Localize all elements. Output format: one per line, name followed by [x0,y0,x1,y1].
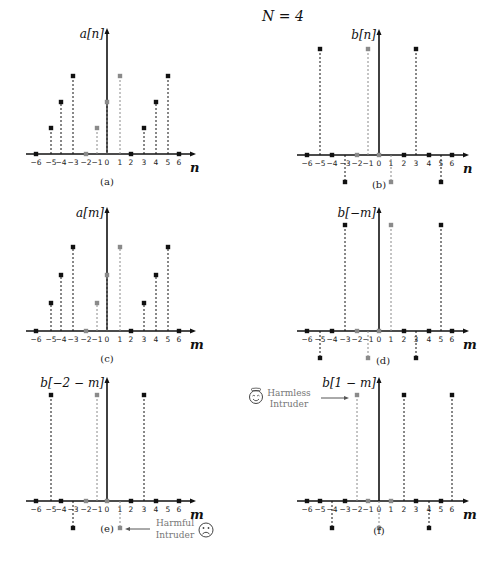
tick-label: 5 [439,335,444,344]
tick-label: −3 [339,335,350,344]
tick-label: −6 [30,335,41,344]
stem-marker [427,153,431,157]
tick-label: 2 [402,335,407,344]
stem-marker [414,356,418,360]
stem-marker [59,100,63,104]
tick-label: 4 [154,158,159,167]
stem-marker [355,329,359,333]
tick-label: 0 [105,335,110,344]
tick-label: 1 [118,335,123,344]
tick-label: 0 [377,335,382,344]
tick-label: 0 [105,505,110,514]
tick-label: −4 [55,505,66,514]
stem-marker [355,153,359,157]
y-axis-label: b[n] [351,28,376,42]
tick-label: 2 [129,505,134,514]
stem-marker [305,329,309,333]
stem-marker [377,153,381,157]
tick-label: −2 [351,505,362,514]
stem-marker [142,126,146,130]
x-axis-arrow-icon [463,153,469,158]
panel-caption: (b) [372,179,386,190]
tick-label: 4 [154,335,159,344]
harmful-label-line2: Intruder [156,530,195,540]
x-axis-arrow-icon [463,499,469,504]
tick-label: −3 [67,335,78,344]
stem-marker [330,329,334,333]
stem-marker [105,499,109,503]
stem-marker [118,74,122,78]
stem-marker [129,152,133,156]
y-axis-arrow-icon [377,377,382,383]
arrow-right-icon [344,396,349,400]
tick-label: −4 [55,158,66,167]
stem-marker [318,499,322,503]
panel-e: b[−2 − m]m−6−5−4−3−2−10123456(e) [26,376,204,534]
stem-marker [34,329,38,333]
x-axis-label: m [190,337,204,352]
tick-label: −4 [326,159,337,168]
harmful-label-line1: Harmful [156,518,194,528]
tick-label: 6 [177,335,182,344]
stem-marker [177,499,181,503]
figure: N = 4 a[n]n−6−5−4−3−2−10123456(a)b[n]n−6… [0,0,491,563]
stem-marker [402,393,406,397]
x-axis-label: n [463,161,472,176]
stem-marker [318,47,322,51]
tick-label: −2 [80,158,91,167]
stem-marker [129,329,133,333]
stem-marker [84,499,88,503]
tick-label: 6 [177,505,182,514]
stem-marker [366,499,370,503]
stem-marker [427,526,431,530]
tick-label: −2 [351,159,362,168]
stem-marker [330,526,334,530]
tick-label: 0 [105,158,110,167]
stem-plots: a[n]n−6−5−4−3−2−10123456(a)b[n]n−6−5−4−3… [0,0,491,563]
y-axis-label: a[m] [76,206,104,220]
stem-marker [154,100,158,104]
x-axis-arrow-icon [190,152,196,157]
x-axis-label: m [463,337,477,352]
stem-marker [95,301,99,305]
stem-marker [59,499,63,503]
tick-label: 4 [427,335,432,344]
harmless-intruder-annotation: HarmlessIntruder [250,388,350,409]
y-axis-label: b[1 − m] [322,376,376,390]
tick-label: 5 [166,158,171,167]
harmless-label-line2: Intruder [270,399,309,409]
stem-marker [402,329,406,333]
stem-marker [95,126,99,130]
tick-label: −6 [30,505,41,514]
tick-label: 3 [414,505,419,514]
tick-label: 4 [154,505,159,514]
x-axis-arrow-icon [190,329,196,334]
tick-label: −1 [91,335,102,344]
stem-marker [343,223,347,227]
y-axis-label: b[−m] [338,206,377,220]
stem-marker [355,393,359,397]
tick-label: −4 [55,335,66,344]
stem-marker [95,393,99,397]
stem-marker [439,180,443,184]
tick-label: −2 [351,335,362,344]
y-axis-arrow-icon [377,207,382,213]
harmless-label-line1: Harmless [267,388,311,398]
tick-label: −4 [326,335,337,344]
panel-caption: (d) [376,355,390,366]
arrow-left-icon [125,527,130,531]
stem-marker [389,180,393,184]
tick-label: 5 [439,505,444,514]
tick-label: −1 [362,159,373,168]
stem-marker [166,245,170,249]
tick-label: 5 [166,335,171,344]
tick-label: 2 [129,335,134,344]
x-axis-label: m [463,507,477,522]
tick-label: 1 [118,158,123,167]
stem-marker [366,356,370,360]
stem-marker [402,153,406,157]
tick-label: 6 [450,505,455,514]
stem-marker [71,245,75,249]
stem-marker [118,526,122,530]
stem-marker [414,47,418,51]
